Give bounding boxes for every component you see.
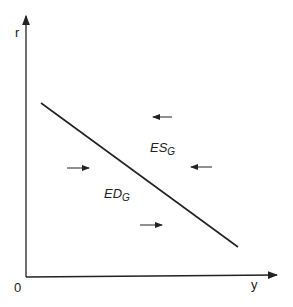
y-axis-label: r xyxy=(15,25,19,40)
excess-supply-label: ESG xyxy=(150,140,175,157)
equilibrium-line xyxy=(41,103,238,247)
origin-label: 0 xyxy=(14,280,21,295)
x-axis xyxy=(26,275,277,277)
excess-demand-label: EDG xyxy=(104,186,130,203)
diagram-canvas xyxy=(0,0,293,307)
x-axis-label: y xyxy=(251,277,258,292)
